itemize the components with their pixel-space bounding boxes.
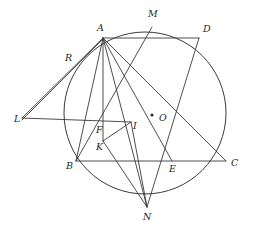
segment-L-I	[22, 118, 131, 122]
segment-A-C	[103, 38, 226, 161]
point-label-N: N	[142, 211, 152, 222]
point-label-B: B	[65, 160, 73, 171]
point-label-K: K	[95, 141, 104, 152]
segment-L-A	[22, 38, 103, 118]
point-label-R: R	[64, 52, 72, 63]
point-label-I: I	[132, 120, 137, 131]
segment-D-N	[147, 38, 199, 207]
point-label-C: C	[231, 157, 239, 168]
segment-K-I	[103, 122, 131, 141]
segment-A-E	[103, 38, 172, 161]
point-label-F: F	[95, 124, 103, 135]
point-label-D: D	[202, 23, 211, 34]
point-label-M: M	[147, 8, 158, 19]
point-label-L: L	[13, 113, 20, 124]
point-label-A: A	[96, 22, 104, 33]
segment-L-R-A	[22, 39, 103, 120]
point-label-E: E	[168, 163, 176, 174]
segment-M-B	[76, 27, 152, 161]
geometry-figure: A M D R L F I O K B E C N	[0, 0, 253, 229]
segment-A-N	[103, 38, 147, 207]
center-point-dot	[150, 113, 153, 116]
point-label-O: O	[159, 112, 167, 123]
